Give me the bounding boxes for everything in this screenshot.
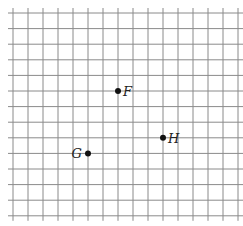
point-f-label: F [122,84,133,99]
grid-lines [8,8,243,221]
coordinate-grid: FHG [0,0,243,226]
point-f-dot [115,88,121,94]
point-g-label: G [72,146,82,161]
point-h-dot [160,135,166,141]
point-g-dot [85,150,91,156]
point-h-label: H [167,131,180,146]
